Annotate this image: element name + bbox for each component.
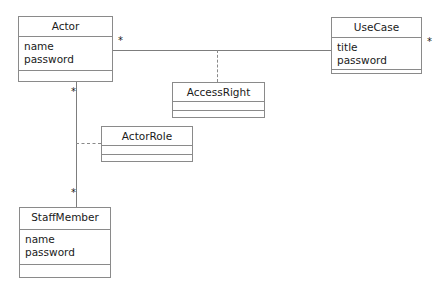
multiplicity-usecase-end: * xyxy=(427,37,432,47)
multiplicity-actor-usecase: * xyxy=(118,36,123,46)
attribute-row: title xyxy=(337,41,421,54)
multiplicity-actor-staffmember-top: * xyxy=(71,87,76,97)
class-box-actorrole[interactable]: ActorRole xyxy=(101,126,193,162)
association-actor-staffmember xyxy=(76,82,77,207)
class-name-actorrole: ActorRole xyxy=(102,127,192,146)
multiplicity-actor-staffmember-bottom: * xyxy=(71,188,76,198)
attribute-row: password xyxy=(25,246,110,259)
attribute-row: name xyxy=(24,40,112,53)
class-attributes-staffmember: name password xyxy=(20,230,110,265)
uml-class-diagram-canvas: Actor name password UseCase title passwo… xyxy=(0,0,447,286)
class-box-staffmember[interactable]: StaffMember name password xyxy=(19,207,111,278)
association-actor-usecase xyxy=(113,50,331,51)
class-attributes-usecase: title password xyxy=(332,38,421,70)
class-box-accessright[interactable]: AccessRight xyxy=(172,82,265,118)
class-attributes-actorrole xyxy=(102,146,192,155)
class-name-accessright: AccessRight xyxy=(173,83,264,102)
class-name-usecase: UseCase xyxy=(332,18,421,38)
attribute-row: password xyxy=(337,54,421,67)
class-attributes-actor: name password xyxy=(19,37,112,71)
association-link-actorrole xyxy=(76,143,101,144)
association-link-accessright xyxy=(217,50,218,82)
attribute-row: password xyxy=(24,53,112,66)
attribute-row: name xyxy=(25,233,110,246)
class-attributes-accessright xyxy=(173,102,264,111)
class-name-actor: Actor xyxy=(19,17,112,37)
class-box-actor[interactable]: Actor name password xyxy=(18,16,113,82)
class-name-staffmember: StaffMember xyxy=(20,208,110,230)
class-box-usecase[interactable]: UseCase title password xyxy=(331,17,422,74)
